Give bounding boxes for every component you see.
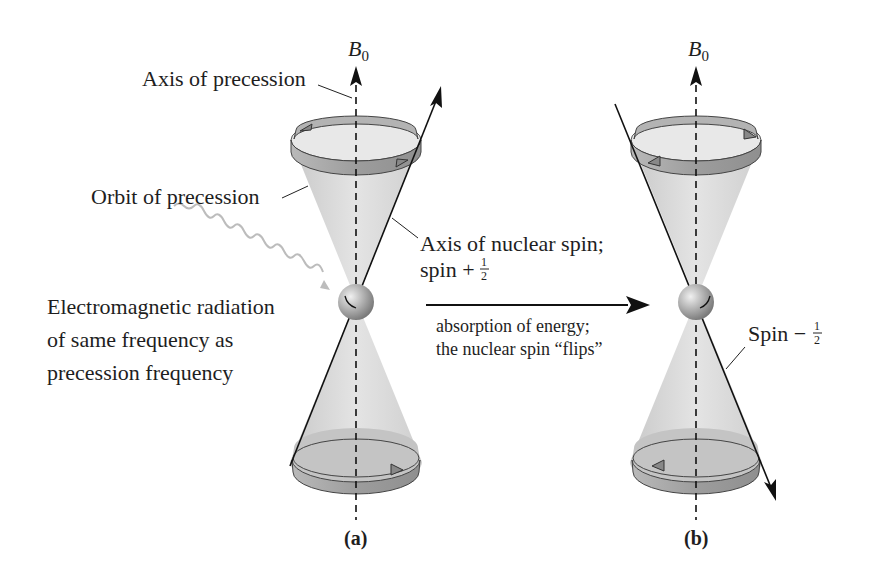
transition-label: absorption of energy; the nuclear spin “… [436, 316, 602, 359]
panel-b: B0 Spin − 1 2 (b) [615, 36, 822, 550]
radiation-label: Electromagnetic radiation of same freque… [47, 294, 280, 385]
spin-minus-half-label: Spin − [748, 321, 806, 346]
transition: absorption of energy; the nuclear spin “… [426, 296, 650, 359]
leader-spin-minus-half [726, 347, 745, 369]
leader-axis-of-nuclear-spin [392, 218, 418, 238]
axis-of-nuclear-spin-label: Axis of nuclear spin; [420, 231, 604, 256]
panel-a: B0 Axis of precession Orbit of precessio… [47, 36, 604, 550]
spin-minus-half-fraction-den: 2 [814, 333, 820, 347]
nucleus-sphere-b [678, 284, 714, 320]
orbit-of-precession-label: Orbit of precession [91, 184, 260, 209]
em-radiation-wave-icon [174, 204, 323, 273]
field-label-a: B0 [348, 36, 369, 64]
transition-arrow-head-icon [626, 296, 650, 314]
b0-arrow-icon-b [690, 66, 702, 86]
spin-up-arrow-icon [430, 86, 442, 108]
nmr-spin-flip-diagram: B0 Axis of precession Orbit of precessio… [0, 0, 872, 561]
spin-plus-half-fraction-den: 2 [481, 269, 487, 283]
b0-arrow-icon-a [350, 66, 362, 86]
leader-orbit-of-precession [282, 186, 308, 198]
spin-down-arrow-icon [764, 479, 776, 501]
spin-plus-half-label: spin + [420, 257, 475, 282]
nucleus-sphere-a [338, 284, 374, 320]
axis-of-precession-label: Axis of precession [142, 66, 306, 91]
spin-minus-half-fraction-num: 1 [814, 319, 820, 333]
panel-a-caption: (a) [344, 527, 367, 550]
spin-plus-half-fraction-num: 1 [481, 255, 487, 269]
panel-b-caption: (b) [684, 527, 708, 550]
field-label-b: B0 [688, 36, 709, 64]
leader-axis-of-precession [318, 85, 352, 98]
